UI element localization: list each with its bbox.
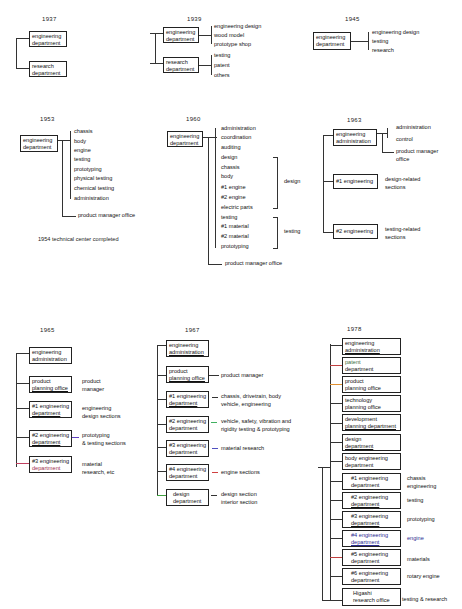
year-label: 1967 — [185, 327, 200, 333]
year-label: 1965 — [40, 327, 55, 333]
desc-label: prototyping — [407, 516, 435, 523]
box-line: design — [173, 491, 206, 498]
connector — [330, 557, 342, 558]
product-manager-office-label: product manager office — [78, 212, 135, 219]
box-line: department — [345, 462, 398, 469]
connector — [157, 495, 166, 496]
design-group-label: design — [284, 178, 300, 185]
org-box-3-engineering-department: #3 engineering department — [342, 511, 401, 528]
connector — [330, 519, 342, 520]
box-line: department — [173, 498, 206, 505]
org-box-body-engineering-department: body engineering department — [342, 453, 401, 470]
child-label: prototyping — [221, 243, 249, 250]
org-box-development-planning-department: development planning department — [342, 414, 401, 431]
connector — [16, 353, 17, 467]
box-line: engineering — [169, 342, 206, 349]
connector — [330, 481, 342, 482]
child-label: engineering design — [372, 29, 419, 36]
child-label: testing — [221, 214, 237, 221]
desc-label: chassis, drivetrain, body — [221, 393, 281, 400]
box-line: #2 engineering — [336, 228, 375, 235]
child-label: administration — [74, 195, 109, 202]
org-box-engineering-administration: engineering administration — [333, 129, 377, 146]
box-line: administration — [32, 356, 69, 363]
box-line: patent — [345, 359, 398, 366]
box-line: department — [351, 577, 398, 584]
year-label: 1937 — [42, 16, 57, 22]
child-label: wood model — [214, 32, 244, 39]
child-label: office — [396, 156, 409, 163]
org-box-research-department: research department — [163, 57, 199, 73]
connector — [382, 152, 394, 153]
box-line: #3 engineering — [351, 513, 398, 520]
connector — [157, 345, 166, 346]
desc-label: vehicle, safety, vibration and — [221, 418, 291, 425]
connector — [330, 365, 342, 366]
desc-label: rigidity testing & prototyping — [221, 426, 290, 433]
org-box-design-department: design department — [342, 434, 401, 451]
connector — [16, 383, 29, 384]
child-label: chemical testing — [74, 185, 114, 192]
desc-label: chassis — [407, 475, 426, 482]
box-line: department — [170, 140, 200, 147]
child-label: physical testing — [74, 175, 112, 182]
box-line: department — [166, 66, 196, 73]
box-line: department — [345, 366, 398, 373]
connector — [212, 397, 218, 398]
connector — [62, 140, 63, 216]
year-label: 1960 — [186, 116, 201, 122]
connector — [150, 33, 164, 34]
org-box-engineering-department: engineering department — [167, 131, 203, 147]
box-line: department — [32, 465, 69, 472]
org-box-3-engineering-department: #3 engineering department — [166, 440, 209, 457]
connector — [208, 264, 222, 265]
box-line: engineering — [32, 349, 69, 356]
org-box-1-engineering-department: #1 engineering department — [342, 473, 401, 490]
connector — [330, 423, 342, 424]
child-label: #1 engine — [221, 184, 246, 191]
org-box-1-engineering-department: #1 engineering department — [166, 391, 209, 408]
connector — [211, 26, 212, 44]
box-line: product — [169, 368, 206, 375]
org-box-3-engineering-department: #3 engineering department — [29, 456, 72, 473]
box-line: development — [345, 416, 398, 423]
box-line: #2 engineering — [351, 494, 398, 501]
desc-label: manager — [82, 386, 104, 393]
box-line: department — [351, 558, 398, 565]
box-line: administration — [336, 138, 374, 145]
connector — [211, 422, 217, 423]
box-line: engineering — [170, 133, 200, 140]
design-group-bracket — [273, 157, 278, 209]
desc-label: product — [82, 378, 101, 385]
box-line: #3 engineering — [169, 442, 206, 449]
connector — [72, 437, 79, 438]
connector — [330, 461, 342, 462]
org-box-2-engineering-department: #2 engineering department — [29, 430, 72, 447]
org-box-higashi-research-office: Higashi research office — [342, 588, 401, 606]
box-line: #1 engineering — [351, 475, 398, 482]
connector — [387, 128, 388, 138]
box-line: engineering — [23, 137, 55, 144]
org-box-engineering-administration: engineering administration — [342, 338, 401, 355]
connector — [368, 32, 369, 50]
org-box-engineering-department: engineering department — [163, 27, 199, 43]
box-line: #3 engineering — [32, 458, 69, 465]
org-box-engineering-administration: engineering administration — [166, 340, 209, 357]
org-box-engineering-administration: engineering administration — [29, 347, 72, 364]
box-line: department — [32, 70, 64, 77]
desc-label: testing & research — [402, 596, 447, 603]
testing-group-bracket — [273, 217, 278, 249]
box-line: research — [166, 59, 196, 66]
year-label: 1963 — [347, 117, 362, 123]
org-box-research-department: research department — [29, 61, 67, 77]
box-line: planning office — [345, 404, 398, 411]
year-label: 1953 — [40, 116, 55, 122]
child-label: administration — [221, 125, 256, 132]
child-label: auditing — [221, 144, 241, 151]
desc-label: prototyping — [82, 432, 110, 439]
box-line: design — [345, 436, 398, 443]
org-box-4-engineering-department: #4 engineering department — [166, 464, 209, 481]
connector — [157, 399, 166, 400]
connector — [211, 55, 212, 75]
desc-label: engine — [407, 535, 424, 542]
